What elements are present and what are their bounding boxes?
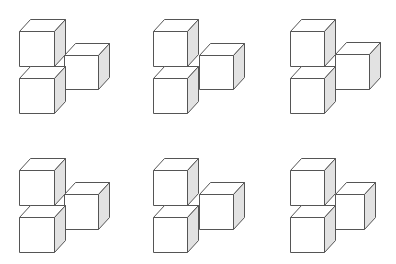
cube-front-face [154,79,188,114]
top-left-cube [154,20,199,67]
figure-3 [291,20,381,114]
top-left-cube [20,20,66,67]
cube-front-face [200,56,234,90]
figure-6 [291,159,376,253]
top-left-cube [20,159,66,206]
figure-5 [154,159,245,253]
right-cube [336,183,376,230]
bottom-left-cube [291,67,336,114]
cube-front-face [200,195,234,230]
cube-front-face [291,171,325,206]
cube-front-face [291,32,325,67]
cube-front-face [336,55,370,90]
cube-front-face [20,218,55,253]
figure-2 [154,20,245,114]
figure-4 [20,159,110,253]
cube-front-face [154,171,188,206]
figure-1 [20,20,110,114]
cube-front-face [291,79,325,114]
cube-front-face [291,218,325,253]
bottom-left-cube [291,206,336,253]
bottom-left-cube [154,67,199,114]
right-cube [336,43,381,90]
bottom-left-cube [20,206,66,253]
cube-front-face [20,32,55,67]
cube-front-face [154,218,188,253]
cube-figures-svg [0,0,396,264]
cube-puzzle-canvas [0,0,396,264]
right-cube [65,183,110,230]
bottom-left-cube [154,206,199,253]
cube-front-face [154,32,188,67]
cube-front-face [65,195,99,230]
cube-front-face [65,56,99,90]
cube-front-face [20,171,55,206]
cube-front-face [20,79,55,114]
right-cube [200,44,245,90]
cube-front-face [336,195,365,230]
right-cube [200,183,245,230]
top-left-cube [291,20,336,67]
bottom-left-cube [20,67,66,114]
top-left-cube [291,159,336,206]
right-cube [65,44,110,90]
top-left-cube [154,159,199,206]
